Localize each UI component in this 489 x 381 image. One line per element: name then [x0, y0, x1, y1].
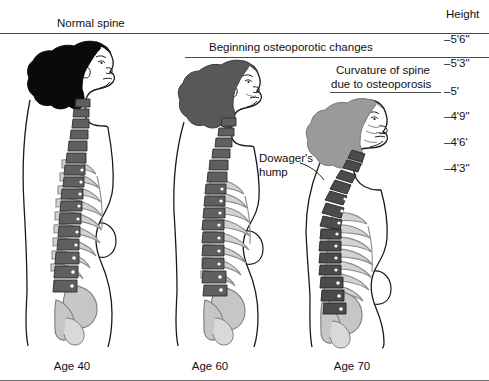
height-tick-5-3: –5'3" — [444, 57, 469, 69]
caption-dowagers-line1: Dowager's — [259, 152, 313, 166]
age-label-40: Age 40 — [32, 360, 112, 372]
height-tick-4-6: –4'6' — [444, 136, 468, 148]
caption-dowagers-line2: hump — [259, 166, 288, 180]
figure-age-40-drawing — [23, 41, 116, 347]
guide-line-5-0 — [330, 92, 441, 93]
figure-age-60-drawing — [174, 60, 263, 347]
age-label-60: Age 60 — [170, 360, 250, 372]
figure-age-70-drawing — [300, 99, 391, 348]
height-tick-4-9: –4'9" — [444, 110, 469, 122]
caption-normal-spine: Normal spine — [57, 17, 125, 31]
caption-curvature-line1: Curvature of spine — [336, 64, 430, 78]
age-label-70: Age 70 — [312, 360, 392, 372]
caption-curvature-line2: due to osteoporosis — [331, 78, 431, 92]
osteoporosis-diagram: Normal spine Beginning osteoporotic chan… — [0, 0, 489, 381]
caption-beginning-changes: Beginning osteoporotic changes — [209, 41, 373, 55]
height-axis-title: Height — [446, 8, 479, 20]
height-tick-4-3: –4'3" — [444, 162, 469, 174]
height-tick-5-6: –5'6" — [444, 33, 469, 45]
guide-line-5-6 — [0, 33, 489, 34]
height-tick-5-0: –5' — [444, 85, 459, 97]
